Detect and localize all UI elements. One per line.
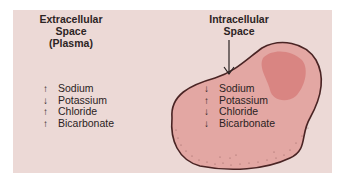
arrow-down-icon: ↓ xyxy=(43,95,58,107)
ion-row: ↑ Sodium xyxy=(43,83,114,95)
intracellular-heading: Intracellular Space xyxy=(204,13,274,37)
ion-name: Chloride xyxy=(219,106,258,118)
ion-name: Bicarbonate xyxy=(219,118,275,130)
arrow-down-icon: ↓ xyxy=(204,83,219,95)
extracellular-ion-list: ↑ Sodium ↓ Potassium ↑ Chloride ↑ Bicarb… xyxy=(43,83,114,129)
ion-name: Sodium xyxy=(58,83,94,95)
ion-name: Chloride xyxy=(58,106,97,118)
ion-row: ↑ Chloride xyxy=(43,106,114,118)
ion-row: ↓ Sodium xyxy=(204,83,275,95)
ion-name: Bicarbonate xyxy=(58,118,114,130)
ion-row: ↓ Bicarbonate xyxy=(204,118,275,130)
ion-name: Sodium xyxy=(219,83,255,95)
arrow-down-icon: ↓ xyxy=(204,118,219,130)
intracellular-ion-list: ↓ Sodium ↑ Potassium ↓ Chloride ↓ Bicarb… xyxy=(204,83,275,129)
arrow-up-icon: ↑ xyxy=(43,106,58,118)
arrow-up-icon: ↑ xyxy=(43,118,58,130)
arrow-up-icon: ↑ xyxy=(204,95,219,107)
arrow-up-icon: ↑ xyxy=(43,83,58,95)
ion-row: ↑ Bicarbonate xyxy=(43,118,114,130)
pointer-arrow-icon xyxy=(224,40,234,74)
arrow-down-icon: ↓ xyxy=(204,106,219,118)
extracellular-heading: Extracellular Space (Plasma) xyxy=(31,13,111,49)
ion-row: ↓ Chloride xyxy=(204,106,275,118)
